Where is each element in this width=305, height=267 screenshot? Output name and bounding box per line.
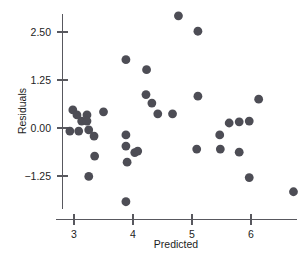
data-point <box>83 117 92 126</box>
data-point <box>123 158 132 167</box>
data-point <box>245 173 254 182</box>
y-axis-tick-labels: 2.501.250.00−1.25 <box>24 26 51 182</box>
data-point <box>142 90 151 99</box>
residual-plot-figure: 2.501.250.00−1.25 3456 Predicted Residua… <box>0 0 305 267</box>
data-point <box>235 117 244 126</box>
y-axis-title: Residuals <box>16 88 28 134</box>
data-point <box>174 11 183 20</box>
data-point <box>254 95 263 104</box>
y-tick-label: 1.25 <box>31 74 52 86</box>
scatter-plot-canvas: 2.501.250.00−1.25 3456 Predicted Residua… <box>0 0 305 267</box>
data-point <box>142 65 151 74</box>
data-point <box>99 107 108 116</box>
y-tick-label: −1.25 <box>24 170 51 182</box>
x-axis-title: Predicted <box>154 238 199 250</box>
data-point <box>225 119 234 128</box>
data-point <box>122 55 131 64</box>
data-point <box>65 127 74 136</box>
data-point <box>147 99 156 108</box>
data-point <box>245 117 254 126</box>
data-point <box>235 148 244 157</box>
data-point <box>153 109 162 118</box>
x-tick-label: 4 <box>130 228 136 240</box>
data-point <box>192 145 201 154</box>
data-point <box>122 142 131 151</box>
data-point <box>133 147 142 156</box>
data-point <box>194 92 203 101</box>
data-points-group <box>65 11 297 206</box>
y-tick-label: 0.00 <box>31 122 52 134</box>
data-point <box>84 172 93 181</box>
data-point <box>216 145 225 154</box>
data-point <box>90 132 99 141</box>
x-tick-label: 6 <box>248 228 254 240</box>
data-point <box>122 197 131 206</box>
x-tick-label: 3 <box>71 228 77 240</box>
data-point <box>194 27 203 36</box>
data-point <box>122 131 131 140</box>
data-point <box>74 127 83 136</box>
data-point <box>289 187 298 196</box>
y-tick-label: 2.50 <box>31 26 52 38</box>
data-point <box>168 109 177 118</box>
data-point <box>215 131 224 140</box>
data-point <box>90 152 99 161</box>
